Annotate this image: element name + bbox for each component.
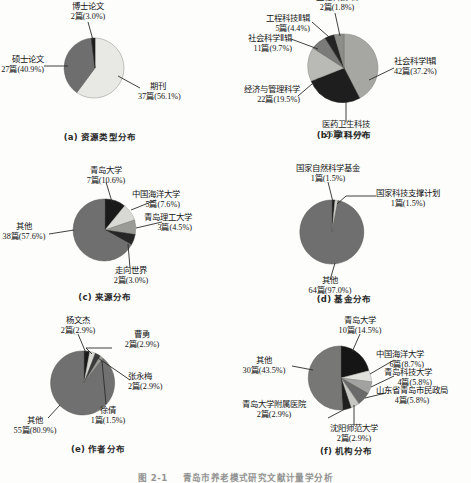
label-e-xuqian: 徐倩 1篇(1.5%): [78, 406, 138, 425]
label-c-zxsj: 走向世界 2篇(3.0%): [86, 266, 176, 285]
label-b-gckj2: 工程科技Ⅱ辑 5篇(4.4%): [210, 14, 310, 33]
pie-d-slices: [300, 200, 364, 264]
pie-c-slices: [73, 199, 136, 261]
pie-b-slices: [308, 34, 378, 103]
caption-d: (d) 基金分布: [264, 292, 424, 304]
label-f-minzheng: 山东省青岛市民政局 4篇(5.8%): [376, 386, 448, 405]
chart-panel-d: 国家自然科学基金 1篇(1.5%) 国家科技支撑计划 1篇(1.5%) 其他 6…: [236, 150, 471, 308]
label-d-nsfc: 国家自然科学基金 1篇(1.5%): [260, 164, 396, 183]
label-c-other: 其他 38篇(57.6%): [0, 222, 52, 241]
label-b-shkx1: 社会科学Ⅰ辑 42篇(37.2%): [394, 57, 437, 76]
caption-f: (f) 机构分布: [266, 444, 426, 456]
label-e-zhangyongmei: 张永梅 2篇(2.9%): [128, 372, 163, 391]
label-c-qdlg: 青岛理工大学 3篇(4.5%): [144, 213, 192, 232]
pie-a-graphic: [0, 0, 236, 150]
label-b-gckj1: 工程科技Ⅰ辑 2篇(1.8%): [272, 0, 402, 12]
chart-panel-e: 杨文杰 2篇(2.9%) 曹勇 2篇(2.9%) 张永梅 2篇(2.9%) 徐倩…: [0, 308, 236, 458]
figure-title-text: 青岛市养老模式研究文献计量学分析: [183, 473, 333, 483]
label-c-ocean: 中国海洋大学 5篇(7.6%): [132, 190, 180, 209]
label-d-kjzc: 国家科技支撑计划 1篇(1.5%): [376, 189, 440, 208]
caption-c: (c) 来源分布: [0, 290, 210, 302]
label-a-qikan: 期刊 37篇(56.1%): [138, 82, 181, 101]
label-f-qduhosp: 青岛大学附属医院 2篇(2.9%): [218, 400, 330, 419]
chart-panel-f: 青岛大学 10篇(14.5%) 中国海洋大学 6篇(8.7%) 青岛科技大学 4…: [236, 308, 471, 458]
label-a-shuoshi: 硕士论文 27篇(40.9%): [0, 55, 44, 74]
chart-panel-b: 工程科技Ⅰ辑 2篇(1.8%) 工程科技Ⅱ辑 5篇(4.4%) 社会科学Ⅱ辑 1…: [236, 0, 471, 150]
label-f-other: 其他 30篇(43.5%): [232, 356, 296, 375]
figure-title: 图 2-1 青岛市养老模式研究文献计量学分析: [0, 471, 471, 483]
label-a-boshi: 博士论文 2篇(3.0%): [34, 2, 142, 21]
label-b-jingji: 经济与管理科学 22篇(19.5%): [192, 85, 300, 104]
label-e-caoyong: 曹勇 2篇(2.9%): [106, 330, 178, 349]
slice-d-other: [300, 200, 364, 264]
pie-a-slices: [64, 38, 124, 98]
caption-e: (e) 作者分布: [0, 442, 196, 454]
caption-b: (b) 学科分布: [264, 128, 424, 140]
chart-panel-a: 博士论文 2篇(3.0%) 期刊 37篇(56.1%) 硕士论文 27篇(40.…: [0, 0, 236, 150]
figure-number: 图 2-1: [138, 473, 168, 483]
label-f-qdu: 青岛大学 10篇(14.5%): [308, 316, 412, 335]
chart-panel-c: 青岛大学 7篇(10.6%) 中国海洋大学 5篇(7.6%) 青岛理工大学 3篇…: [0, 150, 236, 308]
caption-a: (a) 资源类型分布: [0, 130, 200, 142]
label-c-qdu: 青岛大学 7篇(10.6%): [56, 166, 156, 185]
label-b-shkx2: 社会科学Ⅱ辑 11篇(9.7%): [196, 34, 292, 53]
label-f-shenyang: 沈阳师范大学 2篇(2.9%): [308, 424, 400, 443]
label-e-other: 其他 55篇(80.9%): [0, 416, 72, 435]
